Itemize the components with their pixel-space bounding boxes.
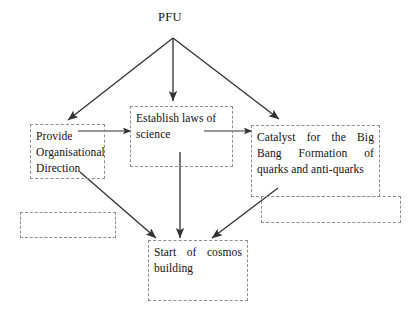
node-empty-left[interactable] <box>20 212 116 238</box>
node-empty-left-label <box>21 213 115 216</box>
node-empty-right[interactable] <box>261 196 401 223</box>
node-start[interactable]: Start of cosmos building <box>148 240 248 301</box>
node-establish[interactable]: Establish laws of science <box>130 106 233 167</box>
node-empty-right-label <box>262 197 400 200</box>
node-catalyst[interactable]: Catalyst for the Big Bang Formation of q… <box>251 125 380 197</box>
node-pfu-label: PFU <box>158 10 182 24</box>
node-provide[interactable]: Provide Organisational Direction <box>30 124 105 179</box>
node-provide-label: Provide Organisational Direction <box>31 125 104 176</box>
node-start-label: Start of cosmos building <box>149 241 247 276</box>
node-catalyst-label: Catalyst for the Big Bang Formation of q… <box>252 126 379 177</box>
node-establish-label: Establish laws of science <box>131 107 232 142</box>
diagram-canvas: PFU Provide Organisational Direction Est… <box>0 0 418 313</box>
